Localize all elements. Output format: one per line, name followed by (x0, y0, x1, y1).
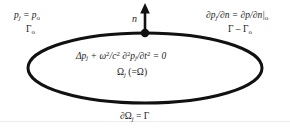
normal-vector-arrow (140, 3, 150, 37)
acoustic-domain-figure: pj = po Γo ∂pj/∂n = ∂p/∂n|o Γ – Γo n Δpj… (0, 0, 290, 132)
boundary-symbol-label: ∂Ωj = Γ (120, 111, 149, 122)
neumann-condition-label: ∂pj/∂n = ∂p/∂n|o (206, 10, 268, 21)
normal-base-point (141, 29, 149, 37)
dirichlet-boundary-label: Γo (26, 24, 35, 35)
helmholtz-equation-label: Δpj + ω2/c2 ∂2pj/∂t2 = 0 (76, 50, 166, 62)
normal-arrow-head (140, 3, 150, 14)
neumann-boundary-label: Γ – Γo (228, 24, 252, 35)
dirichlet-condition-label: pj = po (14, 10, 40, 21)
domain-symbol-label: Ωj (=Ω) (117, 67, 147, 78)
normal-vector-label: n (132, 13, 137, 24)
